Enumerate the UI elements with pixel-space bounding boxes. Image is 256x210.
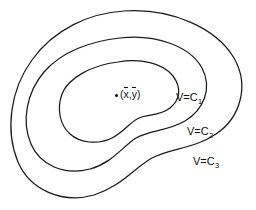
equilibrium-point-group: (x,y) bbox=[115, 88, 140, 100]
point-y-bar: y bbox=[132, 88, 137, 100]
contour-label-c2-subscript: 2 bbox=[209, 131, 213, 140]
contour-label-c3: V=C3 bbox=[193, 156, 219, 167]
contour-label-c1: V=C1 bbox=[176, 92, 202, 103]
contour-curve-c2 bbox=[26, 37, 206, 171]
contour-label-c1-base: V=C bbox=[176, 91, 198, 103]
contour-label-c3-subscript: 3 bbox=[215, 161, 219, 170]
contour-figure: (x,y) V=C1 V=C2 V=C3 bbox=[0, 0, 256, 210]
contour-label-c1-subscript: 1 bbox=[198, 97, 202, 106]
contour-curves bbox=[0, 0, 256, 210]
point-paren-close: ) bbox=[137, 88, 141, 100]
contour-curve-c3 bbox=[11, 11, 242, 198]
equilibrium-point-label: (x,y) bbox=[120, 88, 140, 100]
contour-label-c3-base: V=C bbox=[193, 155, 215, 167]
point-x-bar: x bbox=[124, 88, 129, 100]
contour-label-c2: V=C2 bbox=[187, 126, 213, 137]
equilibrium-point-dot bbox=[115, 94, 118, 97]
contour-label-c2-base: V=C bbox=[187, 125, 209, 137]
